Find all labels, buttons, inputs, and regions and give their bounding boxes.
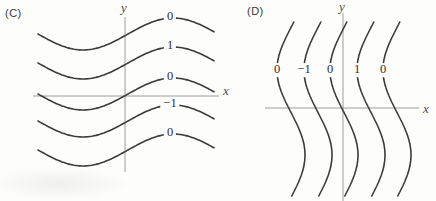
contour-label: −1 xyxy=(160,97,179,111)
contour-label: 0 xyxy=(164,70,176,84)
contour-label: 0 xyxy=(164,10,176,24)
contour-label: 0 xyxy=(377,63,389,77)
contour-label: 0 xyxy=(324,63,336,77)
contour-label: 1 xyxy=(351,63,363,77)
contour-label: 0 xyxy=(271,63,283,77)
x-axis-label-d: x xyxy=(423,102,429,115)
x-axis-label-c: x xyxy=(223,84,229,97)
curves-canvas xyxy=(0,0,436,201)
contour-label: −1 xyxy=(294,63,313,77)
contour-label: 0 xyxy=(164,126,176,140)
y-axis-label-c: y xyxy=(121,1,127,14)
panel-label-d: (D) xyxy=(247,5,264,17)
contour-figure: (C) (D) y x y x 0 1 0 −1 0 0 −1 0 1 0 xyxy=(0,0,436,201)
contour-label: 1 xyxy=(164,39,176,53)
panel-label-c: (C) xyxy=(5,7,22,19)
y-axis-label-d: y xyxy=(339,0,345,13)
